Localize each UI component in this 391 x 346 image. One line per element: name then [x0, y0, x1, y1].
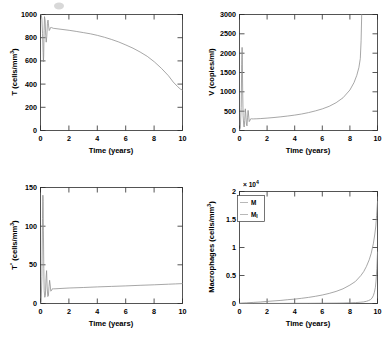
panel-V-viral-load: 0 500 1000 1500 2000 2500 3000 0 2 4 6 8… — [195, 0, 391, 172]
panel-Tstar-xtick-2: 2 — [67, 307, 71, 316]
panel-M-exponent-sup: 4 — [256, 179, 259, 185]
legend-label-M: M — [251, 199, 256, 206]
panel-Tstar-plot-area: 0 50 100 150 0 2 4 6 8 10 Time (years) T… — [9, 183, 187, 328]
svg-text:× 104: × 104 — [243, 179, 259, 188]
panel-macrophages: × 104 — [195, 173, 391, 346]
svg-text:V (copies/ml): V (copies/ml) — [207, 48, 216, 96]
panel-T-xtick-4: 4 — [95, 134, 99, 143]
panel-T-series-T — [41, 15, 183, 91]
panel-T-plot-area: 0 200 400 600 800 1000 0 2 4 6 8 10 Time… — [9, 10, 187, 155]
panel-V-ytick-0: 0 — [232, 126, 236, 135]
panel-M-yaxis-label: Macrophages (cells/mm3) — [206, 201, 216, 293]
panel-Tstar-infected-cd4: 0 50 100 150 0 2 4 6 8 10 Time (years) T… — [0, 173, 196, 346]
panel-V-x-ticks — [240, 15, 378, 131]
panel-Tstar-xtick-6: 6 — [124, 307, 128, 316]
panel-V-xtick-2: 2 — [265, 134, 269, 143]
panel-T-xtick-8: 8 — [152, 134, 156, 143]
panel-M-xtick-2: 2 — [265, 307, 269, 316]
panel-M-yaxis-label-tail: ) — [207, 201, 216, 204]
panel-Tstar-ytick-0: 0 — [33, 299, 37, 308]
panel-V-yaxis-label: V (copies/ml) — [207, 48, 216, 96]
panel-M-xtick-10: 10 — [374, 307, 382, 316]
panel-T-ytick-600: 600 — [25, 56, 37, 65]
panel-M-exponent-main: × 10 — [243, 181, 256, 188]
panel-T-xaxis-label: Time (years) — [89, 146, 134, 155]
panel-T-x-ticks — [41, 15, 183, 131]
panel-T-ytick-200: 200 — [25, 103, 37, 112]
panel-T-xtick-0: 0 — [39, 134, 43, 143]
panel-Tstar-xtick-10: 10 — [179, 307, 187, 316]
panel-M-ytick-05: 0.5 — [226, 271, 236, 280]
svg-text:Macrophages (cells/mm3): Macrophages (cells/mm3) — [206, 201, 216, 293]
panel-V-xaxis-label: Time (years) — [286, 146, 331, 155]
panel-V-xtick-8: 8 — [348, 134, 352, 143]
panel-Tstar-series-Tstar — [41, 195, 183, 303]
panel-T-xtick-6: 6 — [124, 134, 128, 143]
panel-V-xtick-10: 10 — [374, 134, 382, 143]
panel-Tstar-xaxis-label: Time (years) — [89, 319, 134, 328]
panel-M-xtick-4: 4 — [293, 307, 297, 316]
panel-Tstar-xtick-8: 8 — [152, 307, 156, 316]
panel-M-exponent-label: × 104 — [243, 179, 259, 188]
panel-M-legend[interactable]: M MI — [238, 196, 265, 222]
panel-Tstar-yaxis-label-tail: ) — [10, 220, 19, 223]
panel-M-xtick-8: 8 — [348, 307, 352, 316]
panel-V-ytick-1500: 1500 — [220, 68, 236, 77]
panel-Tstar-yaxis-label: T* (cells/mm3) — [9, 220, 19, 270]
panel-Tstar-ytick-50: 50 — [29, 260, 37, 269]
panel-M-xtick-0: 0 — [238, 307, 242, 316]
panel-V-plot-area: 0 500 1000 1500 2000 2500 3000 0 2 4 6 8… — [207, 10, 382, 155]
panel-V-xtick-0: 0 — [238, 134, 242, 143]
panel-V-ytick-500: 500 — [224, 107, 236, 116]
panel-V-ytick-1000: 1000 — [220, 87, 236, 96]
panel-V-ytick-2500: 2500 — [220, 29, 236, 38]
panel-T-xtick-2: 2 — [67, 134, 71, 143]
panel-V-series-V — [240, 15, 362, 131]
panel-M-ytick-0: 0 — [232, 299, 236, 308]
panel-T-ytick-400: 400 — [25, 80, 37, 89]
figure-canvas: 0 200 400 600 800 1000 0 2 4 6 8 10 Time… — [0, 0, 391, 346]
panel-V-y-ticks — [240, 15, 378, 131]
panel-M-plot-area: × 104 — [206, 179, 382, 328]
panel-M-series-MI — [240, 252, 378, 304]
panel-T-y-ticks — [41, 15, 183, 131]
panel-V-xtick-6: 6 — [320, 134, 324, 143]
panel-T-ytick-0: 0 — [33, 126, 37, 135]
panel-T-cd4: 0 200 400 600 800 1000 0 2 4 6 8 10 Time… — [0, 0, 196, 172]
panel-Tstar-xtick-4: 4 — [95, 307, 99, 316]
panel-M-xtick-6: 6 — [320, 307, 324, 316]
panel-T-ytick-1000: 1000 — [21, 10, 37, 19]
panel-V-ytick-2000: 2000 — [220, 49, 236, 58]
svg-text:T (cells/mm3): T (cells/mm3) — [9, 48, 19, 96]
panel-T-xtick-10: 10 — [179, 134, 187, 143]
panel-T-ytick-800: 800 — [25, 33, 37, 42]
panel-M-ytick-1: 1 — [232, 243, 236, 252]
panel-M-ytick-15: 1.5 — [226, 215, 236, 224]
panel-V-xtick-4: 4 — [293, 134, 297, 143]
panel-T-yaxis-label-main: T (cells/mm — [10, 54, 19, 96]
panel-T-yaxis-label-tail: ) — [10, 48, 19, 51]
panel-M-xaxis-label: Time (years) — [286, 319, 331, 328]
panel-T-yaxis-label: T (cells/mm3) — [9, 48, 19, 96]
scan-artifact-speck — [52, 1, 66, 11]
panel-M-ytick-2: 2 — [232, 187, 236, 196]
svg-text:T* (cells/mm3): T* (cells/mm3) — [9, 220, 19, 270]
panel-Tstar-ytick-150: 150 — [25, 183, 37, 192]
panel-Tstar-xtick-0: 0 — [39, 307, 43, 316]
panel-V-ytick-3000: 3000 — [220, 10, 236, 19]
panel-M-yaxis-label-main: Macrophages (cells/mm — [207, 206, 216, 292]
panel-Tstar-ytick-100: 100 — [25, 222, 37, 231]
